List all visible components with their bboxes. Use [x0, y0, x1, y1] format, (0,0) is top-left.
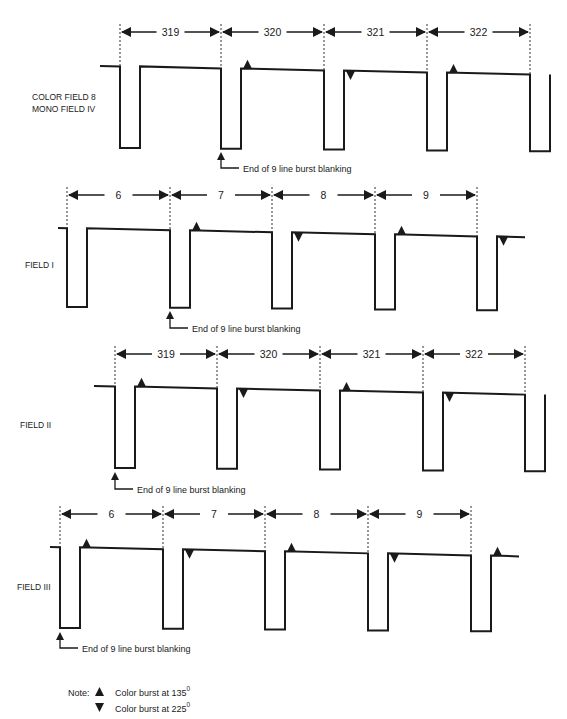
burst-135-icon [493, 547, 502, 556]
field-label: FIELD II [20, 420, 51, 430]
arrowhead-icon [61, 509, 71, 519]
legend-note-prefix: Note: [68, 688, 90, 698]
legend-item-text: Color burst at 2250 [115, 701, 191, 714]
sync-waveform [94, 386, 545, 471]
arrowhead-icon [206, 349, 216, 359]
arrowhead-icon [357, 509, 367, 519]
line-number: 7 [211, 508, 217, 520]
arrowhead-icon [466, 190, 476, 200]
line-number: 322 [465, 348, 483, 360]
arrowhead-icon [428, 27, 438, 37]
arrowhead-icon [313, 27, 323, 37]
burst-blanking-diagram: COLOR FIELD 8MONO FIELD IV319320321322En… [0, 0, 567, 719]
burst-135-icon [287, 543, 296, 552]
line-number: 320 [264, 26, 282, 38]
arrowhead-icon [364, 190, 374, 200]
burst-225-icon [390, 554, 399, 563]
line-number: 8 [321, 189, 327, 201]
arrowhead-icon [369, 509, 379, 519]
arrowhead-icon [266, 509, 276, 519]
line-number: 319 [157, 348, 175, 360]
burst-225-icon [499, 237, 508, 246]
arrowhead-icon [159, 190, 169, 200]
burst-225-icon [185, 550, 194, 559]
arrowhead-icon [424, 349, 434, 359]
field-label: FIELD I [25, 260, 54, 270]
line-number: 6 [109, 508, 115, 520]
burst-blanking-annotation: End of 9 line burst blanking [192, 324, 301, 334]
panel-color-field-8: COLOR FIELD 8MONO FIELD IV319320321322En… [32, 24, 550, 174]
arrowhead-icon [171, 190, 181, 200]
arrowhead-icon [416, 27, 426, 37]
burst-135-icon [243, 60, 252, 69]
burst-135-icon [449, 64, 458, 73]
up-arrow-icon [111, 472, 119, 480]
burst-225-icon [346, 71, 355, 80]
arrowhead-icon [519, 27, 529, 37]
burst-blanking-annotation: End of 9 line burst blanking [137, 485, 246, 495]
panel-field-iii: FIELD III6789End of 9 line burst blankin… [17, 506, 519, 654]
arrowhead-icon [412, 349, 422, 359]
burst-225-icon [239, 389, 248, 398]
arrowhead-icon [152, 509, 162, 519]
arrowhead-icon [309, 349, 319, 359]
burst-135-icon [342, 382, 351, 391]
burst-225-icon [294, 233, 303, 242]
burst-blanking-annotation: End of 9 line burst blanking [243, 164, 352, 174]
sync-waveform [100, 66, 550, 151]
line-number: 6 [116, 189, 122, 201]
arrowhead-icon [376, 190, 386, 200]
up-arrow-icon [56, 632, 64, 640]
line-number: 322 [470, 26, 488, 38]
arrowhead-icon [514, 349, 524, 359]
up-arrow-icon [217, 152, 225, 160]
panel-field-ii: FIELD II319320321322End of 9 line burst … [20, 346, 545, 495]
arrowhead-icon [254, 509, 264, 519]
arrowhead-icon [68, 190, 78, 200]
line-number: 9 [423, 189, 429, 201]
annotation-leader [170, 318, 188, 328]
burst-blanking-annotation: End of 9 line burst blanking [82, 644, 191, 654]
arrowhead-icon [218, 349, 228, 359]
legend-up-triangle-icon [95, 687, 104, 696]
line-number: 319 [162, 26, 180, 38]
annotation-leader [221, 159, 239, 168]
sync-waveform [58, 228, 525, 310]
burst-135-icon [82, 539, 91, 548]
line-number: 320 [260, 348, 278, 360]
arrowhead-icon [261, 190, 271, 200]
legend-item-text: Color burst at 1350 [115, 685, 191, 698]
field-label: FIELD III [17, 582, 51, 592]
line-number: 7 [218, 189, 224, 201]
burst-135-icon [192, 222, 201, 231]
legend-down-triangle-icon [95, 703, 104, 712]
arrowhead-icon [321, 349, 331, 359]
annotation-leader [115, 479, 133, 489]
arrowhead-icon [210, 27, 220, 37]
annotation-leader [60, 639, 78, 648]
burst-135-icon [137, 378, 146, 387]
arrowhead-icon [121, 27, 131, 37]
up-arrow-icon [166, 311, 174, 319]
line-number: 8 [314, 508, 320, 520]
field-label: COLOR FIELD 8 [32, 92, 96, 102]
arrowhead-icon [116, 349, 126, 359]
line-number: 321 [367, 26, 385, 38]
arrowhead-icon [273, 190, 283, 200]
arrowhead-icon [222, 27, 232, 37]
panel-field-i: FIELD I6789End of 9 line burst blanking [25, 187, 525, 334]
line-number: 9 [417, 508, 423, 520]
burst-135-icon [397, 226, 406, 235]
arrowhead-icon [325, 27, 335, 37]
field-label: MONO FIELD IV [32, 104, 96, 114]
legend: Note:Color burst at 1350Color burst at 2… [68, 685, 191, 714]
arrowhead-icon [164, 509, 174, 519]
burst-225-icon [445, 393, 454, 402]
line-number: 321 [363, 348, 381, 360]
sync-waveform [50, 547, 519, 631]
arrowhead-icon [460, 509, 470, 519]
